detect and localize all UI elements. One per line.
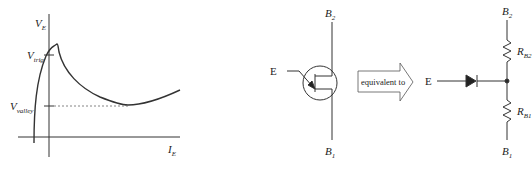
circuit-emitter-label: E xyxy=(425,75,432,87)
x-axis-label: IE xyxy=(167,143,177,158)
rb2-resistor-icon xyxy=(503,40,511,62)
circuit-base1-label: B1 xyxy=(502,145,512,160)
ujt-diagram: VE IE Vtrig Vvalley E B2 B1 equivalent t… xyxy=(0,0,532,169)
ujt-symbol xyxy=(287,22,337,140)
ujt-characteristic-graph xyxy=(18,14,180,157)
y-axis-label: VE xyxy=(35,17,47,32)
rb2-label: RB2 xyxy=(516,45,532,60)
v-valley-label: Vvalley xyxy=(10,100,34,115)
rb1-label: RB1 xyxy=(516,105,532,120)
characteristic-curve xyxy=(34,44,180,143)
circuit-base2-label: B2 xyxy=(502,5,513,20)
equivalent-circuit xyxy=(437,20,511,140)
v-trig-label: Vtrig xyxy=(27,49,44,64)
diode-icon xyxy=(466,75,476,87)
ujt-emitter-label: E xyxy=(270,65,277,77)
equivalent-to-label: equivalent to xyxy=(361,77,405,87)
rb1-resistor-icon xyxy=(503,100,511,122)
ujt-base2-label: B2 xyxy=(325,7,336,22)
ujt-base1-label: B1 xyxy=(325,145,335,160)
